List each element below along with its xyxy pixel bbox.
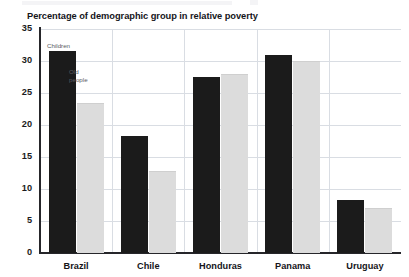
- y-tick-label-30: 30: [2, 55, 32, 65]
- y-tick-label-35: 35: [2, 23, 32, 33]
- x-tick-label-uruguay: Uruguay: [325, 261, 405, 271]
- series-annotation-children: Children: [47, 42, 70, 50]
- bar-uruguay-old-people: [365, 208, 392, 253]
- bar-brazil-old-people: [77, 103, 104, 253]
- bar-chile-old-people: [149, 171, 176, 253]
- series-annotation-old-people: Oldpeople: [69, 68, 88, 83]
- group-divider-3: [257, 29, 258, 253]
- bar-panama-children: [265, 55, 292, 253]
- group-divider-1: [112, 29, 113, 253]
- old-people-line-1: Old: [69, 68, 79, 75]
- old-people-line-2: people: [69, 76, 88, 83]
- x-tick-label-chile: Chile: [108, 261, 188, 271]
- y-axis-line: [39, 27, 41, 254]
- y-tick-label-20: 20: [2, 119, 32, 129]
- y-tick-label-10: 10: [2, 183, 32, 193]
- bar-honduras-old-people: [221, 74, 248, 253]
- y-tick-label-15: 15: [2, 151, 32, 161]
- chart-figure: Percentage of demographic group in relat…: [0, 0, 409, 277]
- y-tick-label-0: 0: [2, 247, 32, 257]
- x-tick-label-honduras: Honduras: [181, 261, 261, 271]
- gridline-30: [40, 61, 401, 62]
- group-divider-2: [184, 29, 185, 253]
- y-tick-label-25: 25: [2, 87, 32, 97]
- bar-chile-children: [121, 136, 148, 253]
- bar-panama-old-people: [293, 61, 320, 253]
- scan-artifact: [0, 0, 409, 8]
- y-tick-label-5: 5: [2, 215, 32, 225]
- bar-honduras-children: [193, 77, 220, 253]
- group-divider-4: [329, 29, 330, 253]
- bar-uruguay-children: [337, 200, 364, 253]
- gridline-35: [40, 29, 401, 30]
- x-tick-label-brazil: Brazil: [36, 261, 116, 271]
- x-tick-label-panama: Panama: [253, 261, 333, 271]
- chart-title: Percentage of demographic group in relat…: [27, 11, 258, 21]
